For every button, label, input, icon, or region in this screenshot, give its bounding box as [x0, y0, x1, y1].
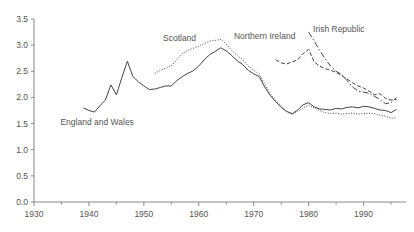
series-lines [83, 32, 396, 118]
series-line-northern-ireland [276, 49, 397, 100]
x-tick-label: 1980 [299, 209, 318, 219]
series-line-scotland [155, 39, 397, 118]
y-tick-label: 0.0 [16, 197, 28, 207]
y-axis-tick-labels: 0.00.51.01.52.02.53.03.5 [16, 14, 28, 207]
y-tick-label: 1.0 [16, 145, 28, 155]
y-tick-label: 2.5 [16, 66, 28, 76]
y-tick-label: 3.0 [16, 40, 28, 50]
x-tick-label: 1930 [25, 209, 44, 219]
x-tick-label: 1960 [189, 209, 208, 219]
series-label-irish-republic: Irish Republic [313, 24, 365, 34]
y-tick-label: 1.5 [16, 119, 28, 129]
y-tick-label: 0.5 [16, 171, 28, 181]
x-axis-tick-marks [34, 202, 391, 206]
y-tick-label: 3.5 [16, 14, 28, 24]
x-tick-label: 1940 [79, 209, 98, 219]
series-inline-labels: England and WalesScotlandNorthern Irelan… [60, 24, 365, 128]
chart-container: 0.00.51.01.52.02.53.03.5 193019401950196… [0, 0, 414, 232]
x-tick-label: 1950 [134, 209, 153, 219]
y-tick-label: 2.0 [16, 92, 28, 102]
series-label-scotland: Scotland [163, 33, 196, 43]
fertility-rate-line-chart: 0.00.51.01.52.02.53.03.5 193019401950196… [0, 0, 414, 232]
series-label-northern-ireland: Northern Ireland [234, 31, 296, 41]
series-label-england-and-wales: England and Wales [60, 117, 133, 127]
x-tick-label: 1970 [244, 209, 263, 219]
x-axis-tick-labels: 1930194019501960197019801990 [25, 209, 374, 219]
series-line-irish-republic [309, 32, 397, 104]
x-tick-label: 1990 [354, 209, 373, 219]
